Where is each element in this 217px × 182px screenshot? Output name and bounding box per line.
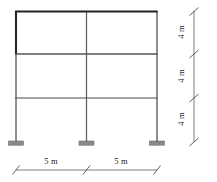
story-2-height-label: 4 m [176, 69, 186, 83]
column-group [16, 11, 157, 142]
support-middle [79, 141, 94, 145]
support-group [9, 141, 165, 145]
frame-diagram-canvas: 4 m 4 m 4 m 5 m 5 m [0, 0, 217, 182]
story-3-height-label: 4 m [176, 25, 186, 39]
bay-right-width-label: 5 m [114, 156, 128, 166]
vertical-dimension-group: 4 m 4 m 4 m [176, 8, 199, 147]
support-right [150, 141, 165, 145]
structural-frame-drawing: 4 m 4 m 4 m 5 m 5 m [0, 0, 217, 182]
support-left [9, 141, 24, 145]
horizontal-dimension-group: 5 m 5 m [13, 156, 161, 175]
bay-left-width-label: 5 m [44, 156, 58, 166]
story-1-height-label: 4 m [176, 112, 186, 126]
